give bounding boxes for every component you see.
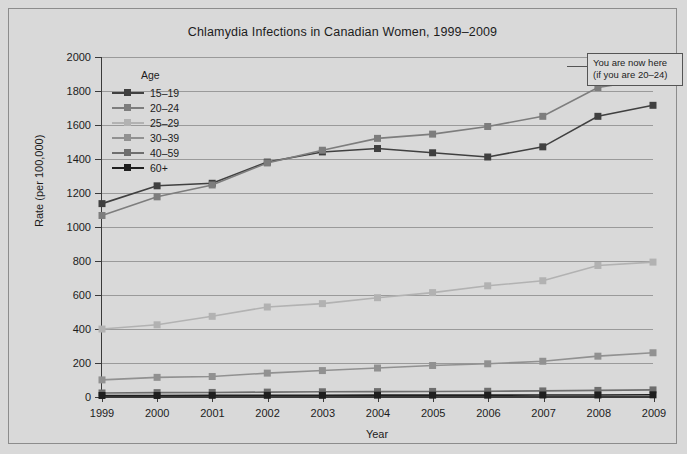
data-point-marker — [594, 113, 601, 120]
legend-item-15–19: 15–19 — [112, 85, 179, 100]
data-point-marker — [319, 392, 326, 399]
y-tick — [95, 363, 102, 364]
y-tick-label: 2000 — [67, 51, 91, 63]
legend-swatch — [112, 132, 144, 143]
legend-item-40–59: 40–59 — [112, 145, 179, 160]
legend-item-30–39: 30–39 — [112, 130, 179, 145]
data-point-marker — [539, 277, 546, 284]
x-tick-label: 2008 — [587, 407, 611, 419]
data-point-marker — [650, 349, 657, 356]
legend-label: 20–24 — [150, 102, 179, 114]
data-point-marker — [99, 212, 106, 219]
x-axis-title: Year — [101, 428, 653, 440]
annotation-leader-line — [567, 66, 588, 67]
data-point-marker — [650, 102, 657, 109]
y-tick — [95, 295, 102, 296]
data-point-marker — [429, 149, 436, 156]
legend-item-60+: 60+ — [112, 160, 179, 175]
legend-marker — [124, 134, 131, 141]
data-point-marker — [264, 304, 271, 311]
x-tick-label: 1999 — [90, 407, 114, 419]
annotation-line-2: (if you are 20–24) — [593, 69, 678, 81]
series-30–39 — [99, 349, 657, 383]
legend-swatch — [112, 117, 144, 128]
y-tick — [95, 125, 102, 126]
data-point-marker — [209, 392, 216, 399]
legend-marker — [124, 104, 131, 111]
y-axis-title: Rate (per 100,000) — [33, 135, 45, 227]
data-point-marker — [594, 353, 601, 360]
data-point-marker — [264, 159, 271, 166]
data-point-marker — [484, 360, 491, 367]
legend-item-25–29: 25–29 — [112, 115, 179, 130]
x-tick-label: 2002 — [255, 407, 279, 419]
data-point-marker — [484, 123, 491, 130]
data-point-marker — [539, 391, 546, 398]
legend-label: 30–39 — [150, 132, 179, 144]
data-point-marker — [650, 259, 657, 266]
legend-title: Age — [141, 69, 179, 81]
chart-screenshot: Chlamydia Infections in Canadian Women, … — [0, 0, 687, 454]
y-tick — [95, 227, 102, 228]
legend-swatch — [112, 162, 144, 173]
data-point-marker — [154, 193, 161, 200]
y-tick-label: 0 — [85, 391, 91, 403]
data-point-marker — [99, 326, 106, 333]
data-point-marker — [209, 373, 216, 380]
x-tick-label: 2000 — [145, 407, 169, 419]
data-point-marker — [99, 200, 106, 207]
legend-swatch — [112, 87, 144, 98]
data-point-marker — [484, 282, 491, 289]
legend-swatch — [112, 102, 144, 113]
legend-items: 15–1920–2425–2930–3940–5960+ — [112, 85, 179, 175]
data-point-marker — [99, 392, 106, 399]
legend-swatch — [112, 147, 144, 158]
legend-label: 15–19 — [150, 87, 179, 99]
data-point-marker — [539, 358, 546, 365]
y-tick-label: 200 — [73, 357, 91, 369]
y-tick-label: 1000 — [67, 221, 91, 233]
data-point-marker — [374, 135, 381, 142]
y-tick — [95, 159, 102, 160]
x-tick-label: 2004 — [366, 407, 390, 419]
data-point-marker — [484, 392, 491, 399]
y-tick-label: 1800 — [67, 85, 91, 97]
data-point-marker — [539, 143, 546, 150]
data-point-marker — [319, 147, 326, 154]
data-point-marker — [594, 391, 601, 398]
data-point-marker — [429, 289, 436, 296]
data-point-marker — [264, 392, 271, 399]
data-point-marker — [429, 362, 436, 369]
data-point-marker — [650, 391, 657, 398]
data-point-marker — [209, 313, 216, 320]
data-point-marker — [429, 131, 436, 138]
data-point-marker — [154, 182, 161, 189]
data-point-marker — [154, 374, 161, 381]
x-tick-label: 2006 — [476, 407, 500, 419]
series-layer — [102, 57, 653, 396]
legend-label: 25–29 — [150, 117, 179, 129]
annotation-line-1: You are now here — [593, 57, 678, 69]
data-point-marker — [264, 370, 271, 377]
x-tick-label: 2009 — [642, 407, 666, 419]
y-tick-label: 400 — [73, 323, 91, 335]
x-tick-label: 2003 — [311, 407, 335, 419]
data-point-marker — [99, 376, 106, 383]
series-line — [102, 105, 653, 203]
y-tick — [95, 261, 102, 262]
chart-title: Chlamydia Infections in Canadian Women, … — [9, 25, 676, 39]
data-point-marker — [374, 294, 381, 301]
annotation-callout: You are now here (if you are 20–24) — [587, 53, 683, 86]
data-point-marker — [484, 154, 491, 161]
y-tick — [95, 91, 102, 92]
legend: Age 15–1920–2425–2930–3940–5960+ — [112, 69, 179, 175]
data-point-marker — [539, 113, 546, 120]
legend-marker — [124, 119, 131, 126]
y-tick — [95, 57, 102, 58]
data-point-marker — [594, 262, 601, 269]
data-point-marker — [154, 321, 161, 328]
y-tick-label: 1600 — [67, 119, 91, 131]
x-tick-label: 2001 — [200, 407, 224, 419]
plot-area: 0200400600800100012001400160018002000 19… — [101, 57, 653, 397]
legend-label: 60+ — [150, 162, 168, 174]
